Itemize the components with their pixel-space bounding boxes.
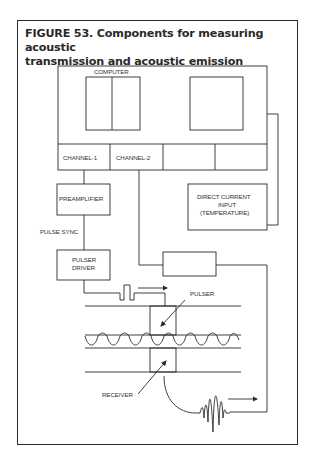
pulser-driver-label-1: PULSER [72,256,97,263]
amplifier-box [163,252,216,276]
computer-right-panel [190,77,243,130]
diagram-canvas: COMPUTER CHANNEL-1 CHANNEL-2 PREAMPLIFIE… [0,0,309,464]
pulse-sync-label: PULSE SYNC [40,228,79,235]
dc-input-label-2: INPUT [218,201,236,208]
receiver-transducer [150,348,176,372]
channel-1-label: CHANNEL-1 [63,154,98,161]
channel-2-label: CHANNEL-2 [116,154,151,161]
receiver-label: RECEIVER [102,391,133,398]
dc-input-label-1: DIRECT CURRENT [197,193,251,200]
computer-left-panel [86,77,140,130]
pulser-transducer [150,306,176,335]
preamplifier-label: PREAMPLIFIER [59,195,104,202]
pulser-label: PULSER [190,290,215,297]
pulser-driver-label-2: DRIVER [72,264,95,271]
computer-label: COMPUTER [94,68,129,75]
dc-input-label-3: (TEMPERATURE) [200,209,249,216]
